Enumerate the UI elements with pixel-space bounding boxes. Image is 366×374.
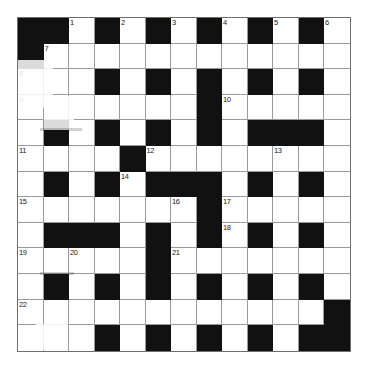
crossword-cell[interactable] — [299, 95, 325, 121]
crossword-cell[interactable] — [324, 274, 350, 300]
crossword-cell[interactable]: 2 — [120, 18, 146, 44]
crossword-cell[interactable]: 9 — [18, 95, 44, 121]
crossword-cell[interactable] — [120, 274, 146, 300]
crossword-cell[interactable]: 7 — [44, 44, 70, 70]
crossword-cell[interactable] — [222, 274, 248, 300]
crossword-cell[interactable] — [299, 146, 325, 172]
crossword-cell[interactable]: 18 — [222, 223, 248, 249]
crossword-cell[interactable] — [69, 325, 95, 351]
crossword-cell[interactable] — [222, 120, 248, 146]
crossword-cell[interactable] — [95, 146, 121, 172]
crossword-cell[interactable] — [69, 120, 95, 146]
crossword-cell[interactable] — [197, 248, 223, 274]
crossword-cell[interactable] — [273, 325, 299, 351]
crossword-cell[interactable] — [146, 44, 172, 70]
crossword-cell[interactable]: 15 — [18, 197, 44, 223]
crossword-cell[interactable] — [197, 44, 223, 70]
crossword-cell[interactable] — [324, 248, 350, 274]
crossword-cell[interactable] — [95, 300, 121, 326]
crossword-cell[interactable] — [171, 146, 197, 172]
crossword-cell[interactable] — [120, 325, 146, 351]
crossword-cell[interactable] — [69, 274, 95, 300]
crossword-cell[interactable] — [324, 69, 350, 95]
crossword-cell[interactable] — [18, 325, 44, 351]
crossword-cell[interactable] — [120, 248, 146, 274]
crossword-cell[interactable]: 14 — [120, 172, 146, 198]
crossword-cell[interactable] — [222, 248, 248, 274]
crossword-cell[interactable] — [171, 120, 197, 146]
crossword-cell[interactable]: 17 — [222, 197, 248, 223]
crossword-cell[interactable]: 10 — [222, 95, 248, 121]
crossword-cell[interactable]: 1 — [69, 18, 95, 44]
crossword-cell[interactable] — [146, 300, 172, 326]
crossword-cell[interactable] — [44, 69, 70, 95]
crossword-cell[interactable] — [324, 223, 350, 249]
crossword-cell[interactable] — [324, 146, 350, 172]
crossword-cell[interactable] — [324, 120, 350, 146]
crossword-cell[interactable]: 3 — [171, 18, 197, 44]
crossword-cell[interactable] — [44, 325, 70, 351]
crossword-grid[interactable]: 12345678910111213141516171819202122 — [17, 17, 351, 352]
crossword-cell[interactable] — [95, 44, 121, 70]
crossword-cell[interactable] — [273, 197, 299, 223]
crossword-cell[interactable] — [69, 172, 95, 198]
crossword-cell[interactable] — [324, 44, 350, 70]
crossword-cell[interactable] — [273, 69, 299, 95]
crossword-cell[interactable] — [222, 44, 248, 70]
crossword-cell[interactable]: 13 — [273, 146, 299, 172]
crossword-cell[interactable] — [18, 172, 44, 198]
crossword-cell[interactable] — [171, 69, 197, 95]
crossword-cell[interactable]: 8 — [18, 69, 44, 95]
crossword-cell[interactable]: 6 — [324, 18, 350, 44]
crossword-cell[interactable] — [273, 172, 299, 198]
crossword-cell[interactable] — [69, 197, 95, 223]
crossword-cell[interactable] — [171, 300, 197, 326]
crossword-cell[interactable] — [222, 69, 248, 95]
crossword-cell[interactable] — [44, 146, 70, 172]
crossword-cell[interactable] — [299, 300, 325, 326]
crossword-cell[interactable]: 11 — [18, 146, 44, 172]
crossword-cell[interactable] — [197, 146, 223, 172]
crossword-cell[interactable] — [171, 274, 197, 300]
crossword-cell[interactable] — [273, 274, 299, 300]
crossword-cell[interactable] — [69, 44, 95, 70]
crossword-cell[interactable] — [248, 248, 274, 274]
crossword-cell[interactable] — [18, 120, 44, 146]
crossword-cell[interactable]: 5 — [273, 18, 299, 44]
crossword-cell[interactable] — [95, 248, 121, 274]
crossword-cell[interactable] — [171, 223, 197, 249]
crossword-cell[interactable] — [248, 197, 274, 223]
crossword-cell[interactable] — [120, 69, 146, 95]
crossword-cell[interactable] — [146, 95, 172, 121]
crossword-cell[interactable] — [222, 325, 248, 351]
crossword-cell[interactable] — [44, 197, 70, 223]
crossword-cell[interactable] — [120, 197, 146, 223]
crossword-cell[interactable] — [248, 146, 274, 172]
crossword-cell[interactable] — [69, 300, 95, 326]
crossword-cell[interactable]: 12 — [146, 146, 172, 172]
crossword-cell[interactable] — [222, 300, 248, 326]
crossword-cell[interactable] — [120, 120, 146, 146]
crossword-cell[interactable] — [120, 300, 146, 326]
crossword-cell[interactable]: 4 — [222, 18, 248, 44]
crossword-cell[interactable] — [324, 197, 350, 223]
crossword-cell[interactable] — [44, 95, 70, 121]
crossword-cell[interactable]: 19 — [18, 248, 44, 274]
crossword-cell[interactable] — [324, 172, 350, 198]
crossword-cell[interactable] — [120, 223, 146, 249]
crossword-cell[interactable] — [324, 95, 350, 121]
crossword-cell[interactable] — [120, 44, 146, 70]
crossword-cell[interactable] — [171, 95, 197, 121]
crossword-cell[interactable]: 16 — [171, 197, 197, 223]
crossword-cell[interactable] — [95, 197, 121, 223]
crossword-cell[interactable] — [299, 248, 325, 274]
crossword-cell[interactable] — [69, 69, 95, 95]
crossword-cell[interactable] — [18, 223, 44, 249]
crossword-cell[interactable]: 21 — [171, 248, 197, 274]
crossword-cell[interactable] — [248, 44, 274, 70]
crossword-cell[interactable] — [18, 274, 44, 300]
crossword-cell[interactable] — [197, 300, 223, 326]
crossword-cell[interactable] — [44, 300, 70, 326]
crossword-cell[interactable] — [273, 300, 299, 326]
crossword-cell[interactable] — [95, 95, 121, 121]
